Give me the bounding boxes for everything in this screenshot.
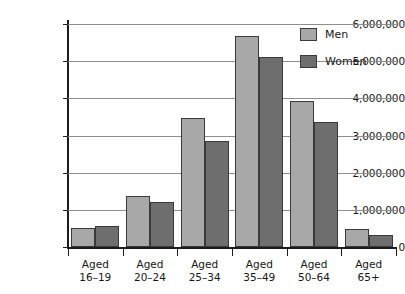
x-axis-tick-mark [287,247,288,256]
bar-group [126,24,174,247]
bar-men [126,196,150,247]
x-axis-category-label-line1: Aged [301,258,328,270]
bar-women [150,202,174,247]
bar-group [235,24,283,247]
bar-men [290,101,314,247]
x-axis-tick-mark [68,247,69,256]
bar-men [71,228,95,247]
x-axis-tick-mark [396,247,397,256]
x-axis-tick-mark [232,247,233,256]
x-axis-category-label-line1: Aged [137,258,164,270]
legend-label: Women [325,55,366,68]
bar-women [95,226,119,247]
bar-men [235,36,259,247]
grouped-bar-chart: 01,000,0002,000,0003,000,0004,000,0005,0… [0,0,405,294]
x-axis-tick-mark [123,247,124,256]
legend-swatch-women-icon [300,55,317,68]
x-axis-category-label-line1: Aged [246,258,273,270]
legend-item-men: Men [300,28,400,41]
legend-label: Men [325,28,348,41]
bar-women [314,122,338,247]
x-axis-tick-mark [177,247,178,256]
x-axis-category-label: Aged65+ [334,258,404,284]
bar-women [369,235,393,247]
bar-group [71,24,119,247]
bar-women [205,141,229,247]
bar-men [181,118,205,247]
x-axis-tick-mark [341,247,342,256]
x-axis-category-label-line1: Aged [355,258,382,270]
bar-group [181,24,229,247]
x-axis-category-label-line1: Aged [82,258,109,270]
legend-swatch-men-icon [300,28,317,41]
x-axis-category-label-line1: Aged [191,258,218,270]
bar-men [345,229,369,247]
bar-women [259,57,283,247]
chart-legend: MenWomen [300,28,400,82]
legend-item-women: Women [300,55,400,68]
x-axis-category-label-line2: 65+ [334,271,404,284]
